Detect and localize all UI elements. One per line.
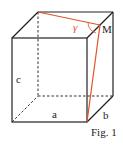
edge-a-label: a — [52, 108, 57, 120]
hidden-edge-depth — [12, 96, 38, 122]
front-face — [12, 38, 87, 122]
edge-c-label: c — [16, 73, 21, 85]
angle-gamma-label: γ — [73, 21, 78, 33]
cuboid-diagram: γ M c a b Fig. 1 — [0, 0, 123, 145]
edge-top-left-depth — [12, 12, 38, 38]
edge-b-label: b — [103, 109, 109, 121]
edge-bottom-right-depth — [87, 96, 113, 122]
figure-caption: Fig. 1 — [91, 126, 117, 138]
point-M-label: M — [102, 23, 112, 35]
segment-to-M-bottom — [87, 25, 100, 122]
segment-to-M-top — [38, 12, 100, 25]
